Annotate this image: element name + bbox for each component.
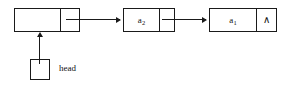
node-data-cell: [15, 9, 60, 31]
node-data-label: a1: [229, 15, 236, 25]
node-link-cell: [159, 9, 174, 31]
pointer-arrow-second-to-third: [162, 19, 206, 20]
list-node-a2: a2: [123, 8, 175, 32]
list-node-first: [14, 8, 80, 32]
node-null-cell: ∧: [256, 9, 276, 31]
head-pointer-box: [30, 59, 50, 80]
node-data-cell: a1: [210, 9, 256, 31]
node-data-subscript: 1: [233, 19, 236, 26]
head-pointer-label: head: [59, 63, 76, 73]
node-link-cell: [60, 9, 79, 31]
node-data-label: a2: [138, 15, 145, 25]
linked-list-diagram: a2 a1 ∧ head: [0, 0, 296, 88]
node-data-cell: a2: [124, 9, 159, 31]
null-pointer-icon: ∧: [263, 15, 270, 25]
pointer-arrow-first-to-second: [66, 19, 120, 20]
list-node-a1: a1 ∧: [209, 8, 277, 32]
node-data-subscript: 2: [142, 19, 145, 26]
head-pointer-arrow: [39, 36, 40, 64]
